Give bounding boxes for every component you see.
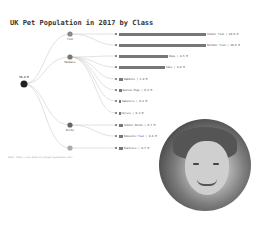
bar-rabbits [119, 78, 123, 81]
node-mammals [67, 54, 72, 59]
bar-hamsters [119, 100, 121, 103]
leaf-dot [115, 124, 117, 126]
smile-icon [197, 179, 217, 186]
bar-indoor-birds [119, 124, 123, 127]
leaf-label: Indoor Birds | 0.7 M [124, 124, 155, 127]
eye-icon [213, 163, 219, 165]
leaf-dot [115, 66, 117, 68]
bar-guinea-pigs [119, 89, 122, 92]
leaf-dot [115, 33, 117, 35]
face-shape [185, 141, 229, 195]
leaf-label: Indoor Fish | 20.0 M [207, 33, 238, 36]
leaf-label: Horses | 0.3 M [122, 112, 144, 115]
bar-dogs [119, 55, 168, 58]
leaf-label: Guinea Pigs | 0.5 M [123, 89, 153, 92]
root-node [21, 81, 28, 88]
birds-label: Birds [66, 129, 74, 132]
leaf-label: Cats | 8.0 M [166, 66, 185, 69]
leaf-dot [115, 78, 117, 80]
bar-indoor-fish [119, 33, 206, 36]
node-fish [67, 31, 72, 36]
bar-horses [119, 112, 121, 115]
leaf-dot [115, 100, 117, 102]
presenter-photo [159, 119, 251, 211]
leaf-label: Outdoor Fish | 20.0 M [207, 44, 240, 47]
leaf-dot [115, 147, 117, 149]
bar-reptiles [119, 147, 123, 150]
bar-cats [119, 66, 165, 69]
node-birds [67, 122, 72, 127]
bar-domestic-fowl [119, 135, 123, 138]
leaf-dot [115, 135, 117, 137]
source-note: Data: https://www.pfma.org.uk/pet-popula… [8, 156, 73, 159]
eye-icon [193, 163, 199, 165]
leaf-dot [115, 44, 117, 46]
leaf-label: Domestic Fowl | 0.6 M [124, 135, 157, 138]
fish-label: Fish [67, 38, 73, 41]
mammals-label: Mammals [65, 61, 76, 64]
leaf-dot [115, 112, 117, 114]
node-reptiles [67, 145, 72, 150]
leaf-label: Hamsters | 0.4 M [122, 100, 147, 103]
bar-outdoor-fish [119, 44, 206, 47]
leaf-label: Rabbits | 1.0 M [124, 78, 147, 81]
leaf-dot [115, 89, 117, 91]
leaf-label: Reptiles | 0.7 M [124, 147, 149, 150]
root-label: 56.8 M [19, 76, 28, 79]
leaf-dot [115, 55, 117, 57]
leaf-label: Dogs | 8.5 M [169, 55, 188, 58]
